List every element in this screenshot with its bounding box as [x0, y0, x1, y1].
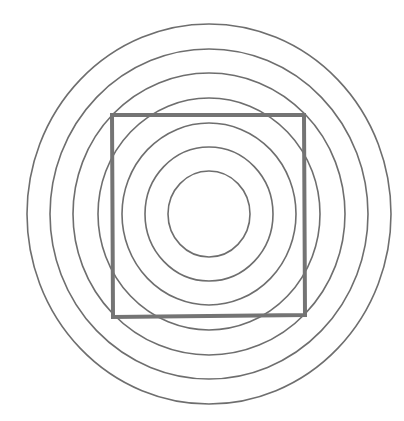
- ring-4: [98, 98, 320, 330]
- illusion-figure: [0, 0, 404, 421]
- concentric-rings: [27, 24, 391, 404]
- concentric-circles-square-diagram: [0, 0, 404, 421]
- ring-3: [122, 123, 296, 305]
- ring-7: [27, 24, 391, 404]
- overlaid-square: [112, 115, 305, 317]
- ring-2: [145, 147, 273, 281]
- ring-1: [168, 171, 250, 257]
